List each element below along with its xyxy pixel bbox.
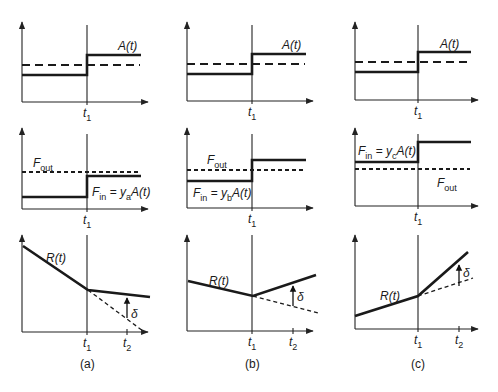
- panel-a-mid-flows: FoutFin = yaA(t)t1: [22, 128, 150, 230]
- delta-label: δ: [131, 307, 138, 321]
- delta-label: δ: [463, 266, 470, 280]
- panel-c-mid-flows: FoutFin = ycA(t)t1: [355, 128, 478, 227]
- t2-tick-label: t2: [123, 336, 131, 353]
- t1-tick-label: t1: [414, 210, 422, 227]
- t1-tick-label: t1: [83, 213, 91, 230]
- a-of-t-label: A(t): [117, 39, 137, 53]
- t1-tick-label: t1: [83, 336, 91, 353]
- r-of-t-curve: [355, 252, 468, 316]
- r-of-t-label: R(t): [380, 289, 400, 303]
- panel-b-top-step-input: A(t)t1: [187, 22, 313, 122]
- r-of-t-label: R(t): [46, 251, 66, 265]
- panel-caption-c: (c): [411, 357, 425, 371]
- panel-c-top-step-input: A(t)t1: [355, 22, 478, 121]
- panel-a-bottom-response: R(t)δt1t2: [22, 235, 150, 353]
- t1-tick-label: t1: [248, 212, 256, 229]
- figure-canvas: A(t)t1FoutFin = yaA(t)t1R(t)δt1t2(a)A(t)…: [0, 0, 498, 392]
- panel-b-bottom-response: R(t)δt1t2: [187, 235, 318, 352]
- r-of-t-label: R(t): [209, 274, 229, 288]
- t1-tick-label: t1: [414, 104, 422, 121]
- a-of-t-label: A(t): [281, 38, 301, 52]
- extrapolated-trend-dashed: [418, 278, 473, 296]
- t1-tick-label: t1: [83, 106, 91, 123]
- a-of-t-label: A(t): [439, 37, 459, 51]
- f-in-label: Fin = ycA(t): [358, 144, 416, 161]
- panel-a-top-step-input: A(t)t1: [22, 22, 148, 123]
- f-in-label: Fin = ybA(t): [193, 186, 251, 203]
- f-out-label: Fout: [207, 153, 227, 170]
- panel-column-c: A(t)t1FoutFin = ycA(t)t1R(t)δt1t2(c): [355, 22, 478, 371]
- panel-caption-a: (a): [80, 357, 95, 371]
- panel-caption-b: (b): [245, 357, 260, 371]
- t1-tick-label: t1: [248, 105, 256, 122]
- extrapolated-trend-dashed: [253, 296, 318, 313]
- panel-b-mid-flows: FoutFin = ybA(t)t1: [187, 128, 313, 229]
- t1-tick-label: t1: [248, 335, 256, 352]
- t1-tick-label: t1: [414, 333, 422, 350]
- f-in-label: Fin = yaA(t): [92, 185, 150, 202]
- f-out-label: Fout: [437, 176, 457, 193]
- panel-column-b: A(t)t1FoutFin = ybA(t)t1R(t)δt1t2(b): [187, 22, 318, 371]
- panel-column-a: A(t)t1FoutFin = yaA(t)t1R(t)δt1t2(a): [22, 22, 150, 371]
- f-out-label: Fout: [33, 156, 53, 173]
- panel-c-bottom-response: R(t)δt1t2: [355, 235, 478, 350]
- t2-tick-label: t2: [289, 335, 297, 352]
- t2-tick-label: t2: [455, 333, 463, 350]
- delta-label: δ: [297, 290, 304, 304]
